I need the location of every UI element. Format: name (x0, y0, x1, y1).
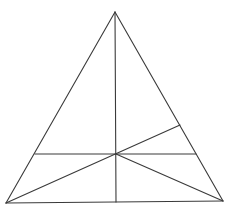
right-side (115, 12, 223, 201)
base (6, 201, 223, 203)
vertical-median (115, 12, 116, 202)
triangle-figure (0, 0, 231, 220)
left-side (6, 12, 115, 203)
diagonal-center-to-bottom-right (116, 154, 223, 201)
diagonal-bottom-left-to-right-side (6, 125, 180, 203)
diagram-canvas (0, 0, 231, 220)
